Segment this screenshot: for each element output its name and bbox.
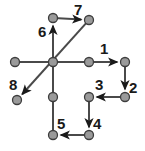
mid-east-node[interactable] <box>85 58 94 67</box>
top-right-node[interactable] <box>85 16 94 25</box>
center-hub-node[interactable] <box>49 58 58 67</box>
inner-lower-node[interactable] <box>85 93 94 102</box>
southwest-node[interactable] <box>13 96 22 105</box>
upper-column-node[interactable] <box>49 14 58 23</box>
graph-svg <box>0 0 145 151</box>
diagram-canvas: 12345678 <box>0 0 145 151</box>
node-layer <box>11 14 130 140</box>
step-label-1: 1 <box>100 41 108 56</box>
step-label-8: 8 <box>9 77 17 92</box>
step-label-4: 4 <box>93 116 101 131</box>
east-corner-node[interactable] <box>121 58 130 67</box>
step-label-6: 6 <box>38 24 46 39</box>
step-label-3: 3 <box>95 77 103 92</box>
west-end-node[interactable] <box>11 58 20 67</box>
step-label-5: 5 <box>57 116 65 131</box>
edge-layer <box>16 18 125 135</box>
mid-south-node[interactable] <box>49 93 58 102</box>
step-label-7: 7 <box>74 2 82 17</box>
step-label-2: 2 <box>129 80 137 95</box>
